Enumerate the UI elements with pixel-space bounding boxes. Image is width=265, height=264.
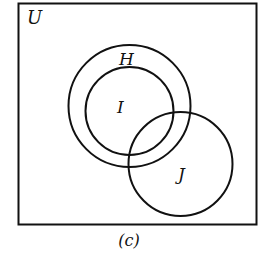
universe-rectangle [19,4,257,225]
venn-diagram: U H I J (c) [0,0,265,264]
set-i-label: I [116,97,124,117]
universe-label: U [27,7,43,28]
set-i-circle [86,67,174,155]
set-j-label: J [175,164,186,184]
set-h-label: H [118,49,135,69]
figure-caption: (c) [118,231,139,250]
